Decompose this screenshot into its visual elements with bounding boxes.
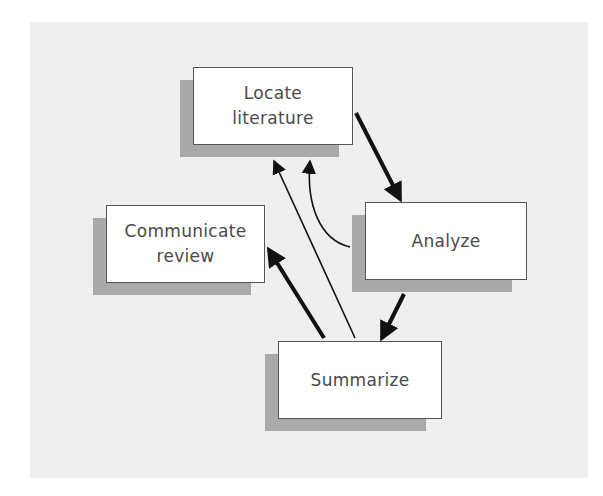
analyze-node: Analyze (365, 202, 527, 280)
communicate-review-label-line1: Communicate (125, 219, 247, 244)
locate-literature-node: Locate literature (193, 67, 353, 145)
analyze-label: Analyze (411, 229, 480, 254)
locate-literature-label-line2: literature (232, 106, 314, 131)
summarize-label: Summarize (311, 368, 410, 393)
communicate-review-label-line2: review (156, 244, 214, 269)
communicate-review-node: Communicate review (106, 205, 265, 283)
locate-literature-label-line1: Locate (244, 81, 302, 106)
summarize-node: Summarize (278, 341, 442, 419)
